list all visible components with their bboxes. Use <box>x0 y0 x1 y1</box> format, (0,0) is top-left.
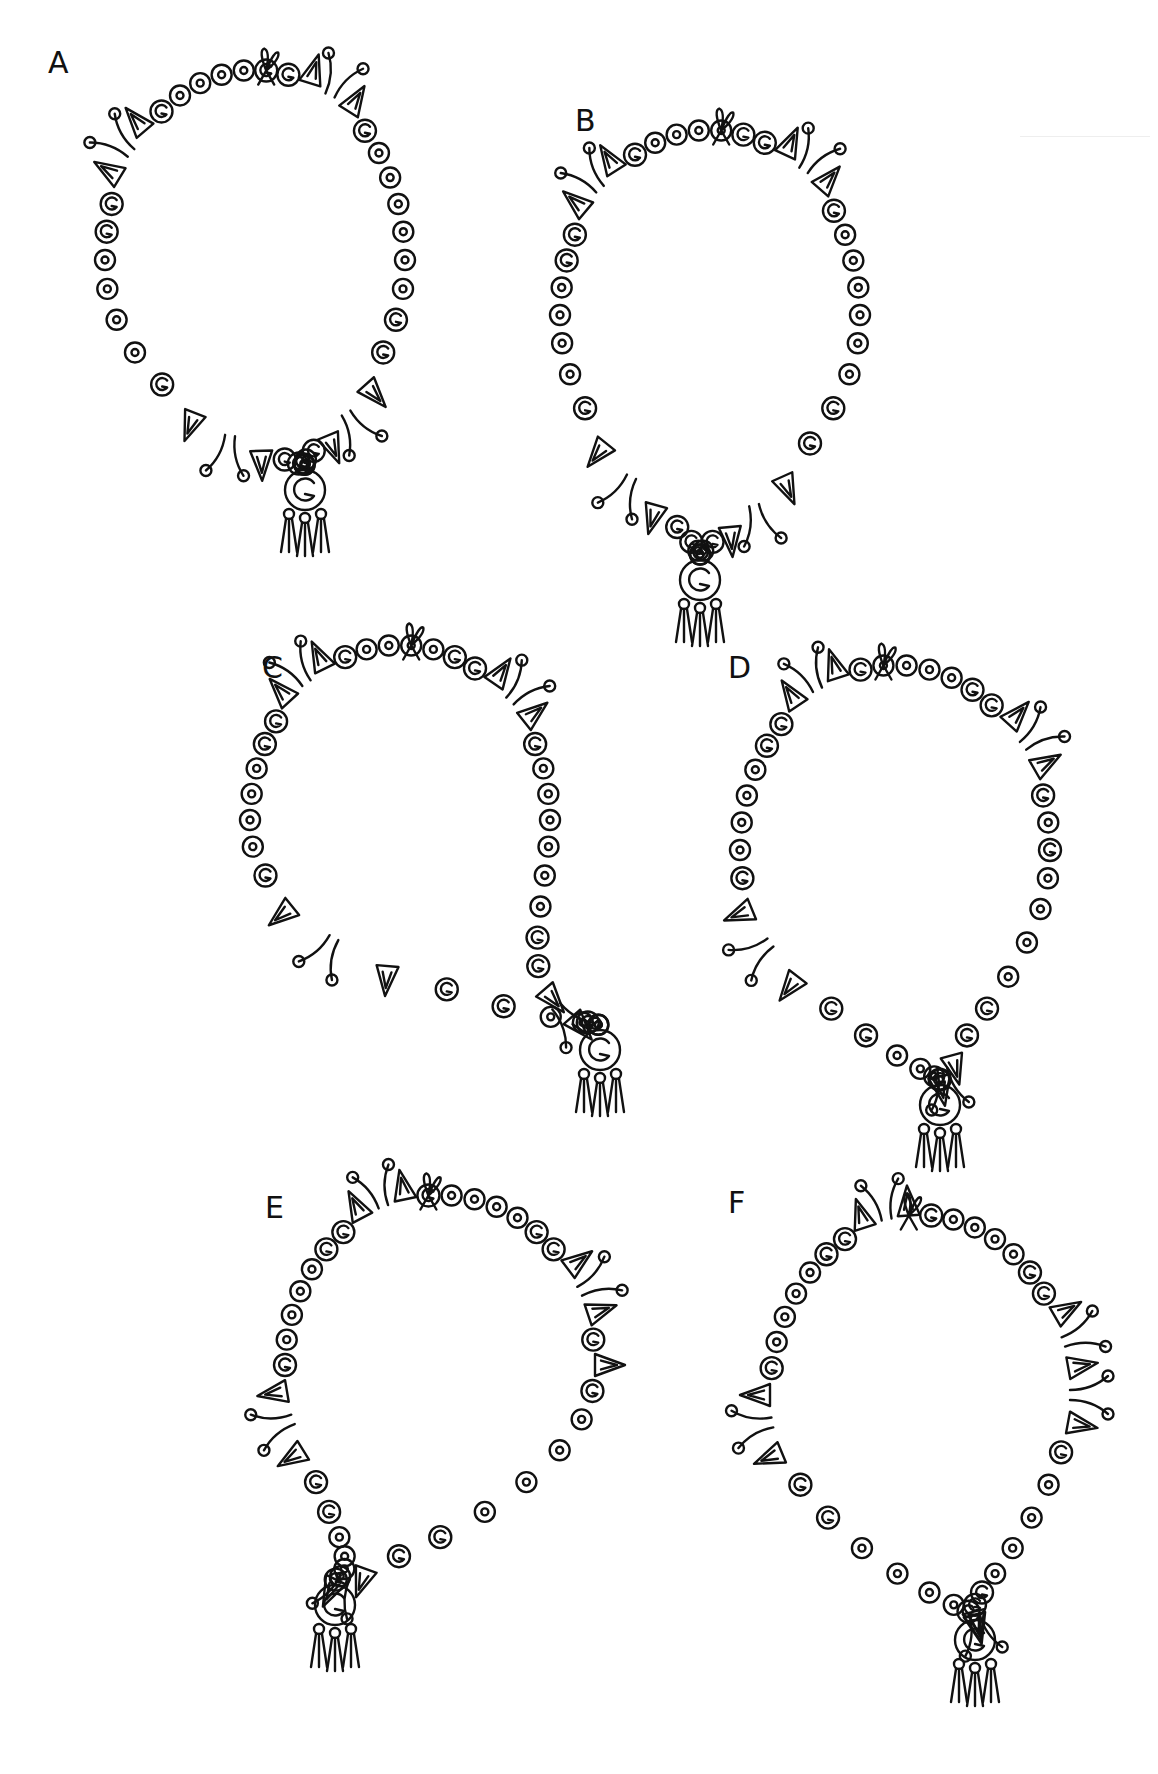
necklace-label-f: F <box>728 1185 745 1220</box>
necklace-drawing-canvas <box>0 0 1158 1774</box>
necklace-b <box>550 109 870 646</box>
necklace-f <box>726 1173 1113 1706</box>
necklace-a <box>84 47 415 556</box>
necklace-label-a: A <box>48 45 69 80</box>
necklace-d <box>723 642 1070 1171</box>
necklace-e <box>245 1159 627 1671</box>
necklace-label-e: E <box>265 1190 284 1225</box>
necklace-label-b: B <box>575 103 596 138</box>
necklace-label-d: D <box>728 650 751 685</box>
necklace-c <box>240 623 624 1116</box>
necklace-label-c: C <box>262 650 283 685</box>
